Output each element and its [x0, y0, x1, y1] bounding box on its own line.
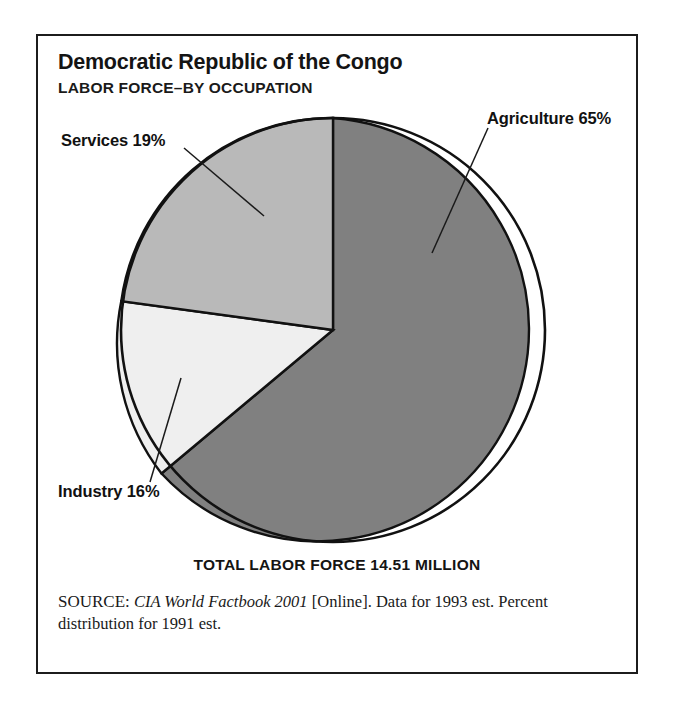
source-note: SOURCE: CIA World Factbook 2001 [Online]…	[58, 591, 614, 635]
pie-label-services: Services 19%	[61, 131, 166, 149]
pie-label-industry: Industry 16%	[58, 482, 160, 500]
source-publication-title: CIA World Factbook 2001	[134, 592, 308, 611]
source-label: SOURCE:	[58, 592, 130, 611]
pie-slice-services[interactable]	[121, 118, 333, 330]
total-labor-force-caption: TOTAL LABOR FORCE 14.51 MILLION	[0, 556, 674, 574]
pie-label-agriculture: Agriculture 65%	[487, 109, 612, 127]
pie-chart-figure: Democratic Republic of the Congo LABOR F…	[0, 0, 674, 704]
